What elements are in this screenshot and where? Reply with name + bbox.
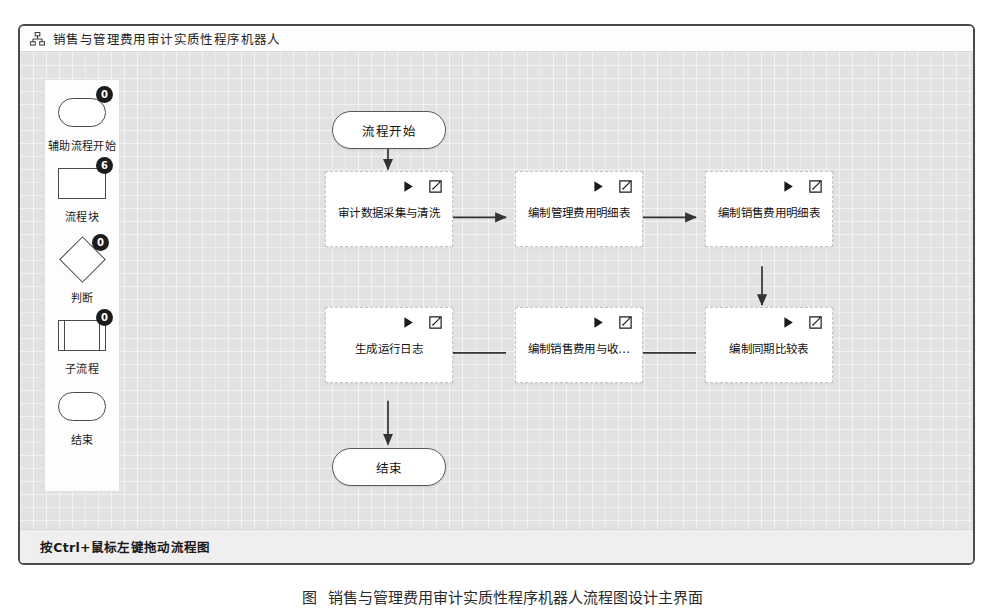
node-label: 编制管理费用明细表 (516, 204, 642, 220)
status-bar: 按Ctrl+鼠标左键拖动流程图 (20, 529, 973, 563)
flow-node-start[interactable]: 流程开始 (332, 111, 446, 149)
node-label: 生成运行日志 (326, 340, 452, 356)
flow-node-generate-log[interactable]: 生成运行日志 (325, 307, 453, 383)
node-action-icons (782, 180, 822, 193)
palette-badge-count: 0 (92, 234, 109, 251)
node-label: 审计数据采集与清洗 (326, 204, 452, 220)
node-label: 编制销售费用明细表 (706, 204, 832, 220)
flowchart-canvas[interactable]: 0 辅助流程开始 6 流程块 0 判断 (20, 52, 973, 563)
edit-icon[interactable] (619, 316, 632, 329)
flow-node-sales-expense-schedule[interactable]: 编制销售费用明细表 (705, 171, 833, 247)
application-window: 销售与管理费用审计实质性程序机器人 0 辅助流程开始 6 流程块 (18, 24, 975, 565)
sitemap-icon (30, 32, 45, 46)
palette-badge-count: 6 (96, 157, 113, 174)
edit-icon[interactable] (809, 180, 822, 193)
play-icon[interactable] (592, 180, 605, 193)
edit-icon[interactable] (619, 180, 632, 193)
play-icon[interactable] (592, 316, 605, 329)
terminator-shape-icon (58, 392, 106, 421)
status-hint-text: 按Ctrl+鼠标左键拖动流程图 (40, 537, 211, 556)
palette-badge-count: 0 (96, 86, 113, 103)
palette-item-decision[interactable]: 0 判断 (45, 234, 119, 305)
palette-badge-count: 0 (96, 309, 113, 326)
node-action-icons (782, 316, 822, 329)
node-action-icons (402, 316, 442, 329)
palette-item-label: 流程块 (65, 208, 99, 224)
play-icon[interactable] (782, 316, 795, 329)
node-label: 流程开始 (362, 121, 416, 140)
play-icon[interactable] (402, 316, 415, 329)
edit-icon[interactable] (429, 316, 442, 329)
figure-caption: 图 销售与管理费用审计实质性程序机器人流程图设计主界面 (0, 586, 1005, 607)
palette-item-label: 结束 (71, 431, 94, 447)
palette-item-process-block[interactable]: 6 流程块 (45, 163, 119, 224)
flow-node-admin-expense-schedule[interactable]: 编制管理费用明细表 (515, 171, 643, 247)
node-label: 结束 (376, 458, 403, 477)
flow-node-end[interactable]: 结束 (332, 448, 446, 486)
node-action-icons (592, 316, 632, 329)
terminator-shape-icon (58, 98, 106, 127)
flow-node-sales-expense-revenue[interactable]: 编制销售费用与收... (515, 307, 643, 383)
play-icon[interactable] (402, 180, 415, 193)
caption-text: 销售与管理费用审计实质性程序机器人流程图设计主界面 (328, 589, 703, 607)
window-title: 销售与管理费用审计实质性程序机器人 (53, 29, 281, 48)
shape-palette: 0 辅助流程开始 6 流程块 0 判断 (44, 79, 120, 492)
palette-item-end[interactable]: 结束 (45, 386, 119, 447)
palette-item-aux-start[interactable]: 0 辅助流程开始 (45, 92, 119, 153)
flow-node-period-comparison[interactable]: 编制同期比较表 (705, 307, 833, 383)
node-label: 编制同期比较表 (706, 340, 832, 356)
palette-item-label: 辅助流程开始 (48, 137, 116, 153)
edit-icon[interactable] (429, 180, 442, 193)
edit-icon[interactable] (809, 316, 822, 329)
palette-item-label: 子流程 (65, 360, 99, 376)
node-action-icons (592, 180, 632, 193)
caption-label: 图 (302, 589, 317, 607)
palette-item-subprocess[interactable]: 0 子流程 (45, 315, 119, 376)
flow-node-audit-data-collection[interactable]: 审计数据采集与清洗 (325, 171, 453, 247)
title-bar: 销售与管理费用审计实质性程序机器人 (20, 26, 973, 52)
node-action-icons (402, 180, 442, 193)
palette-item-label: 判断 (71, 289, 94, 305)
node-label: 编制销售费用与收... (516, 340, 642, 356)
play-icon[interactable] (782, 180, 795, 193)
